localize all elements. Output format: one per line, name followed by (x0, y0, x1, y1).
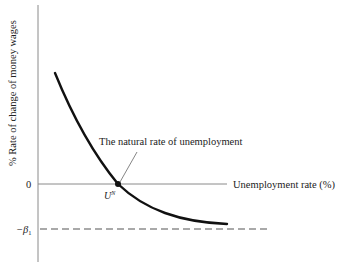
un-label-sup: N (110, 190, 116, 196)
annotation-natural-rate: The natural rate of unemployment (99, 136, 243, 147)
y-axis-label: % Rate of change of money wages (7, 20, 18, 166)
phillips-curve-chart: The natural rate of unemployment UN Unem… (0, 0, 341, 272)
un-label: UN (104, 190, 116, 201)
y-tick-beta-sub: 1 (28, 229, 31, 236)
phillips-curve (55, 73, 227, 224)
y-tick-beta-main: −β (16, 224, 29, 235)
y-tick-zero: 0 (26, 179, 31, 190)
y-tick-beta: −β1 (16, 224, 32, 236)
x-axis-label: Unemployment rate (%) (233, 179, 336, 191)
annotation-leader-line (120, 152, 137, 182)
